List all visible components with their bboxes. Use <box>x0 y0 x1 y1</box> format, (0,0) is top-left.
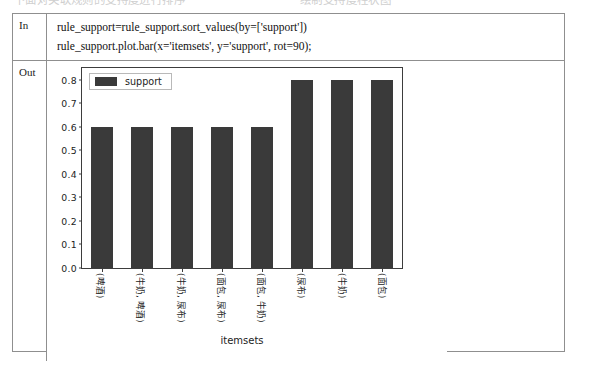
x-label-slot: (牛奶) <box>323 271 363 333</box>
notebook-cell-table: In rule_support=rule_support.sort_values… <box>12 13 565 352</box>
x-label-slot: (牛奶, 尿布) <box>162 271 202 333</box>
legend-swatch-support <box>95 77 117 86</box>
x-label-slot: (面包) <box>363 271 403 333</box>
bar <box>211 127 233 268</box>
y-axis-tick-mark <box>79 173 83 174</box>
x-axis-title: itemsets <box>81 335 403 346</box>
bar <box>371 80 393 268</box>
bar-slot <box>322 68 362 268</box>
plot-area <box>82 68 402 268</box>
y-axis-tick-mark <box>79 150 83 151</box>
top-cutoff-text-right: 绘制支持度柱状图 <box>300 0 391 7</box>
bar-slot <box>162 68 202 268</box>
x-label-slot: (面包, 尿布) <box>202 271 242 333</box>
legend-label-support: support <box>125 76 162 87</box>
code-line: rule_support.plot.bar(x='itemsets', y='s… <box>57 37 564 56</box>
bar-series-support <box>82 68 402 268</box>
y-axis-tick-mark <box>79 220 83 221</box>
x-axis-tick-label: (面包) <box>377 273 389 299</box>
y-axis-tick-label: 0.0 <box>61 263 77 274</box>
bar <box>251 127 273 268</box>
y-axis-tick-label: 0.5 <box>61 145 77 156</box>
x-axis-tick-label: (面包, 尿布) <box>216 273 228 323</box>
bar-chart-figure: 0.00.10.20.30.40.50.60.70.8 support (啤酒)… <box>47 61 447 359</box>
bar-slot <box>202 68 242 268</box>
y-axis-tick-label: 0.4 <box>61 168 77 179</box>
x-label-slot: (面包, 牛奶) <box>242 271 282 333</box>
bar <box>171 127 193 268</box>
y-axis-tick-mark <box>79 244 83 245</box>
x-label-slot: (尿布) <box>282 271 322 333</box>
input-cell-code[interactable]: rule_support=rule_support.sort_values(by… <box>47 14 564 60</box>
bar <box>291 80 313 268</box>
bar-slot <box>362 68 402 268</box>
chart-axes: 0.00.10.20.30.40.50.60.70.8 support <box>81 67 403 269</box>
y-axis-tick-mark <box>79 197 83 198</box>
top-cutoff-text-row: 下面对关联规则的支持度进行排序 绘制支持度柱状图 <box>0 0 591 9</box>
bar <box>131 127 153 268</box>
y-axis-tick-label: 0.6 <box>61 121 77 132</box>
x-label-slot: (啤酒) <box>81 271 121 333</box>
bar <box>331 80 353 268</box>
x-axis-tick-label: (尿布) <box>296 273 308 299</box>
output-cell-row: Out 0.00.10.20.30.40.50.60.70.8 support <box>13 61 564 361</box>
x-axis-tick-label: (面包, 牛奶) <box>256 273 268 323</box>
x-axis-tick-label: (牛奶, 尿布) <box>176 273 188 323</box>
bar-slot <box>82 68 122 268</box>
y-axis-tick-mark <box>79 103 83 104</box>
output-cell-body: 0.00.10.20.30.40.50.60.70.8 support (啤酒)… <box>47 61 564 361</box>
input-cell-row: In rule_support=rule_support.sort_values… <box>13 14 564 61</box>
x-axis-tick-label: (牛奶) <box>337 273 349 299</box>
y-axis-tick-label: 0.1 <box>61 239 77 250</box>
x-axis-tick-label: (啤酒) <box>95 273 107 299</box>
y-axis-tick-label: 0.3 <box>61 192 77 203</box>
x-label-slot: (牛奶, 啤酒) <box>121 271 161 333</box>
y-axis-tick-label: 0.2 <box>61 215 77 226</box>
chart-legend: support <box>89 73 172 90</box>
input-cell-label: In <box>13 14 47 60</box>
y-axis-tick-mark <box>79 268 83 269</box>
bar <box>91 127 113 268</box>
y-axis-tick-mark <box>79 126 83 127</box>
y-axis-tick-mark <box>79 79 83 80</box>
x-axis-tick-label: (牛奶, 啤酒) <box>135 273 147 323</box>
y-axis-tick-label: 0.8 <box>61 74 77 85</box>
bar-slot <box>122 68 162 268</box>
x-axis-tick-labels: (啤酒)(牛奶, 啤酒)(牛奶, 尿布)(面包, 尿布)(面包, 牛奶)(尿布)… <box>81 271 403 333</box>
bar-slot <box>282 68 322 268</box>
code-line: rule_support=rule_support.sort_values(by… <box>57 18 564 37</box>
bar-slot <box>242 68 282 268</box>
y-axis-tick-label: 0.7 <box>61 98 77 109</box>
top-cutoff-text-left: 下面对关联规则的支持度进行排序 <box>14 0 185 7</box>
output-cell-label: Out <box>13 61 47 361</box>
